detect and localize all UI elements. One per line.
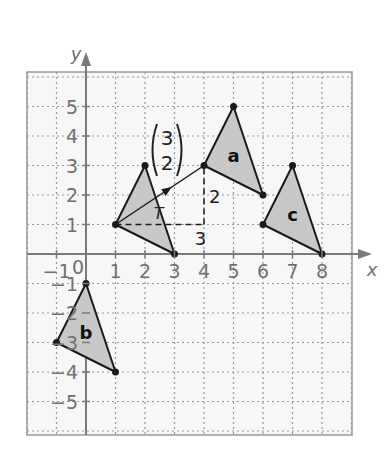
vector-vertical-label: 2 <box>209 186 220 207</box>
y-tick-label: 2 <box>66 184 78 206</box>
y-tick-label: 5 <box>66 96 78 118</box>
grid-plot: abc 32T32 −11234567854321−1−2−3−4−50xy <box>0 0 392 457</box>
vector-horizontal-label: 3 <box>195 228 206 249</box>
x-tick-label: 8 <box>316 260 328 282</box>
triangle-label-c: c <box>287 204 298 225</box>
y-tick-label: 4 <box>66 125 78 147</box>
vertex-point <box>112 369 119 376</box>
y-tick-label: −4 <box>50 361 78 383</box>
vertex-point <box>142 162 149 169</box>
x-tick-label: 2 <box>139 260 151 282</box>
y-axis-arrow-icon <box>81 52 91 66</box>
vertex-point <box>289 162 296 169</box>
x-tick-label: 1 <box>109 260 121 282</box>
x-axis-label: x <box>366 259 378 280</box>
coordinate-grid-diagram: abc 32T32 −11234567854321−1−2−3−4−50xy <box>0 0 392 457</box>
vertex-point <box>260 221 267 228</box>
x-tick-label: 4 <box>198 260 210 282</box>
triangle-label-b: b <box>80 322 93 343</box>
origin-label: 0 <box>72 256 84 278</box>
y-tick-label: 3 <box>66 155 78 177</box>
triangle-label-a: a <box>227 145 239 166</box>
x-axis-arrow-icon <box>358 249 372 259</box>
angle-marker: T <box>154 204 165 223</box>
x-tick-label: 6 <box>257 260 269 282</box>
x-tick-label: 3 <box>168 260 180 282</box>
y-tick-label: −5 <box>50 391 78 413</box>
x-tick-label: 5 <box>227 260 239 282</box>
x-tick-label: 7 <box>286 260 298 282</box>
vertex-point <box>230 103 237 110</box>
column-vector-bottom: 2 <box>161 151 174 175</box>
vertex-point <box>260 192 267 199</box>
y-tick-label: −3 <box>50 332 78 354</box>
y-axis-label: y <box>70 43 82 64</box>
column-vector-top: 3 <box>161 126 174 150</box>
y-tick-label: 1 <box>66 214 78 236</box>
y-tick-label: −2 <box>50 302 78 324</box>
